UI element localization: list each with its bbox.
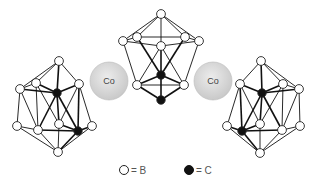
legend: = B = C [120, 165, 212, 176]
cluster-diagram: CoCo = B = C [0, 0, 318, 186]
bond-line [78, 84, 79, 131]
boron-atom-icon [157, 10, 166, 19]
boron-atom-icon [75, 80, 84, 89]
cobalt-label: Co [103, 76, 115, 86]
boron-atom-icon [34, 126, 43, 135]
carbon-atom-icon [157, 96, 165, 104]
bond-line [38, 130, 78, 131]
boron-atom-icon [16, 85, 25, 94]
boron-atom-icon [133, 33, 142, 42]
left-cluster [13, 57, 97, 157]
boron-atom-icon [257, 57, 266, 66]
bond-line [17, 89, 20, 126]
bond-line [59, 84, 79, 124]
boron-atom-icon [279, 80, 288, 89]
boron-atom-icon [181, 33, 190, 42]
boron-atom-icon [295, 85, 304, 94]
cobalt-atom: Co [194, 62, 232, 100]
boron-atom-icon [55, 120, 64, 129]
boron-atom-icon [55, 57, 64, 66]
left-cluster-bonds [17, 61, 92, 152]
bond-line [299, 89, 300, 126]
boron-atom-icon [180, 81, 189, 90]
carbon-atom-icon [258, 89, 266, 97]
right-cluster [223, 57, 305, 158]
bonds-layer [17, 14, 300, 153]
carbon-atom-icon [53, 89, 61, 97]
bond-line [38, 93, 57, 130]
bond-line [242, 130, 282, 131]
carbon-atom-icon [238, 127, 246, 135]
bond-line [262, 93, 282, 130]
boron-atom-icon [278, 126, 287, 135]
boron-atom-icon [119, 37, 128, 46]
boron-legend-icon [120, 166, 129, 175]
boron-atom-icon [256, 120, 265, 129]
carbon-atom-icon [74, 127, 82, 135]
boron-atom-icon [195, 37, 204, 46]
boron-atom-icon [54, 148, 63, 157]
bond-line [137, 37, 161, 75]
atoms-layer [13, 10, 305, 158]
bond-line [240, 84, 242, 131]
boron-atom-icon [88, 122, 97, 131]
boron-atom-icon [32, 79, 41, 88]
cobalt-label: Co [207, 76, 219, 86]
bond-line [20, 89, 38, 130]
diagram-stage: CoCo = B = C [0, 0, 318, 186]
boron-atom-icon [223, 122, 232, 131]
carbon-legend-icon [185, 166, 194, 175]
bond-line [161, 37, 185, 75]
bond-line [79, 84, 92, 126]
right-cluster-bonds [227, 61, 300, 153]
boron-atom-icon [256, 149, 265, 158]
boron-atom-icon [157, 42, 166, 51]
boron-atom-icon [236, 80, 245, 89]
boron-atom-icon [133, 81, 142, 90]
bond-line [161, 14, 185, 37]
legend-boron-label: = B [131, 165, 147, 176]
bond-line [137, 14, 161, 37]
boron-atom-icon [296, 122, 305, 131]
boron-atom-icon [13, 122, 22, 131]
cobalt-atom: Co [90, 62, 128, 100]
carbon-atom-icon [157, 71, 165, 79]
legend-carbon-label: = C [196, 165, 212, 176]
